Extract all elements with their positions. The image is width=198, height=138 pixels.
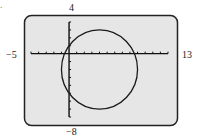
- calculator-screen: [0, 0, 198, 138]
